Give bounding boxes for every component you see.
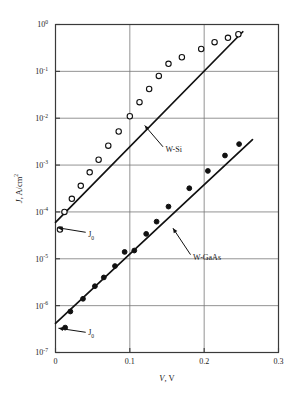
data-point — [92, 284, 97, 289]
data-point — [62, 209, 67, 214]
y-axis-title: J, A/cm2 — [13, 174, 24, 203]
series-w-si — [56, 32, 243, 233]
data-point — [81, 296, 86, 301]
data-point — [101, 275, 106, 280]
data-point — [69, 196, 74, 201]
data-point — [146, 86, 151, 91]
data-point — [144, 231, 149, 236]
y-axis-tick-label: 10-4 — [35, 206, 48, 217]
annotation-label-w-si: W-Si — [145, 125, 183, 154]
y-axis-tick-label: 10-3 — [35, 159, 48, 170]
y-axis-tick-label: 100 — [37, 19, 48, 30]
arrowhead — [173, 228, 177, 233]
annotation-label: J0 — [88, 230, 94, 241]
x-axis-tick-label: 0.3 — [274, 357, 284, 366]
data-point — [68, 309, 73, 314]
series-w-gaas — [56, 140, 253, 330]
x-axis-title: V, V — [159, 373, 175, 383]
data-point — [187, 186, 192, 191]
fit-line — [56, 140, 253, 324]
data-point — [113, 264, 118, 269]
data-point — [212, 39, 217, 44]
annotation-label-w-gaas: W-GaAs — [173, 228, 221, 262]
data-point — [237, 142, 242, 147]
annotation-j0-lower: J0 — [58, 327, 94, 339]
annotation-label: J0 — [88, 328, 94, 339]
arrowhead — [58, 327, 63, 331]
data-point — [137, 99, 142, 104]
x-axis-tick-label: 0.2 — [199, 357, 209, 366]
svg-text:J, A/cm2: J, A/cm2 — [13, 174, 24, 203]
data-point — [225, 35, 230, 40]
x-axis-tick-label: 0.1 — [125, 357, 135, 366]
x-axis-tick-label: 0 — [54, 357, 58, 366]
leader-line — [173, 228, 191, 254]
data-point — [166, 204, 171, 209]
data-point — [236, 32, 241, 37]
annotation-label: W-Si — [166, 145, 183, 154]
y-axis: 10010-110-210-310-410-510-610-7 — [35, 19, 60, 358]
x-axis: 00.10.20.3 — [54, 348, 284, 366]
data-point — [106, 143, 111, 148]
data-point — [154, 219, 159, 224]
y-axis-tick-label: 10-7 — [35, 347, 48, 358]
data-point — [156, 73, 161, 78]
data-point — [179, 55, 184, 60]
data-point — [116, 129, 121, 134]
y-axis-tick-label: 10-6 — [35, 300, 48, 311]
y-axis-tick-label: 10-1 — [35, 66, 48, 77]
y-axis-tick-label: 10-2 — [35, 113, 48, 124]
data-point — [87, 170, 92, 175]
current-density-vs-voltage-chart: 10010-110-210-310-410-510-610-700.10.20.… — [0, 0, 296, 397]
data-point — [223, 153, 228, 158]
data-point — [127, 114, 132, 119]
data-point — [96, 157, 101, 162]
annotation-j0-upper: J0 — [58, 226, 95, 241]
data-point — [205, 169, 210, 174]
data-point — [166, 61, 171, 66]
data-point — [78, 183, 83, 188]
data-point — [122, 250, 127, 255]
data-point — [132, 248, 137, 253]
data-point — [198, 46, 203, 51]
y-axis-tick-label: 10-5 — [35, 253, 48, 264]
figure-container: 10010-110-210-310-410-510-610-700.10.20.… — [0, 0, 296, 397]
annotation-label: W-GaAs — [193, 253, 221, 262]
fit-line — [56, 32, 243, 223]
